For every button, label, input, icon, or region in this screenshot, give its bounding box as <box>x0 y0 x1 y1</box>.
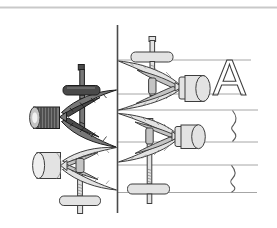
knob-end-highlight <box>32 112 37 123</box>
clamp-upper-left-dark <box>30 65 117 148</box>
screw-wheel <box>128 184 170 194</box>
screw-shaft-upper <box>80 70 85 87</box>
clamp-illustration: A <box>0 0 277 228</box>
cylinder-knob <box>33 153 62 179</box>
knurled-knob <box>30 107 60 129</box>
screw-wheel <box>60 196 101 206</box>
illustration-canvas: A <box>0 0 277 228</box>
screw-wheel <box>63 86 100 96</box>
clamp-lower-left <box>33 147 117 213</box>
rod2-break-mark <box>232 111 236 142</box>
screw-shaft-lower <box>78 206 83 214</box>
clamp-middle-right <box>119 114 206 204</box>
rod-end-cap <box>192 125 206 149</box>
rod-end-cap <box>196 76 210 102</box>
screw-shaft-lower <box>147 194 152 204</box>
screw-wheel <box>131 52 173 62</box>
clamp-upper-right <box>119 37 211 111</box>
knob-end-cap <box>33 153 45 179</box>
letter-label: A <box>213 50 247 106</box>
gripped-rod-middle <box>175 125 205 149</box>
knurl-lines <box>38 108 56 129</box>
pivot-collar <box>149 78 156 94</box>
gripped-rod-upper <box>179 76 210 102</box>
pivot-collar <box>146 128 153 144</box>
pivot-collar <box>76 159 84 173</box>
rod3-break-mark <box>231 165 235 192</box>
lower-jaw-arm <box>63 168 117 191</box>
